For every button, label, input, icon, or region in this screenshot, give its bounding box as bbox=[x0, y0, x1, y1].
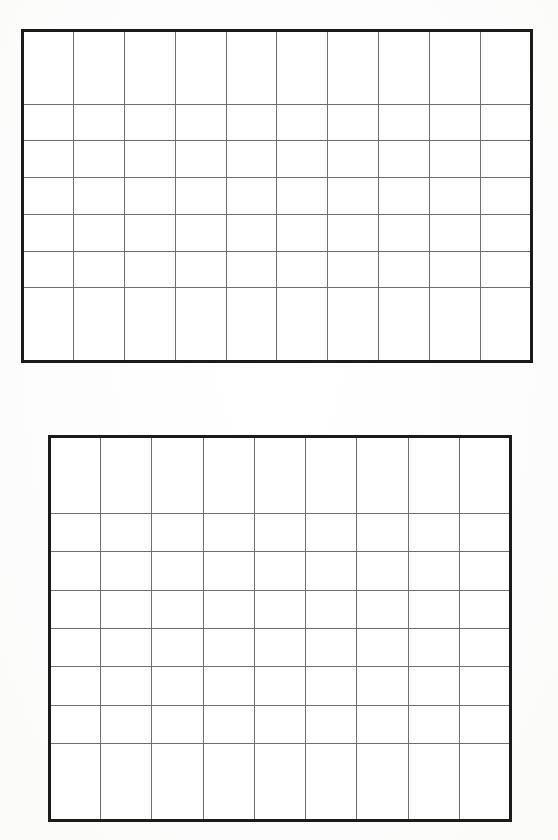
grid-cell[interactable] bbox=[73, 178, 124, 215]
grid-cell[interactable] bbox=[306, 552, 357, 590]
grid-cell[interactable] bbox=[152, 552, 203, 590]
grid-cell[interactable] bbox=[328, 141, 379, 178]
grid-cell[interactable] bbox=[23, 288, 74, 362]
grid-cell[interactable] bbox=[408, 513, 459, 551]
grid-cell[interactable] bbox=[23, 104, 74, 141]
grid-cell[interactable] bbox=[23, 141, 74, 178]
grid-cell[interactable] bbox=[50, 437, 101, 514]
grid-cell[interactable] bbox=[226, 251, 277, 288]
grid-cell[interactable] bbox=[226, 141, 277, 178]
grid-cell[interactable] bbox=[175, 141, 226, 178]
grid-cell[interactable] bbox=[101, 552, 152, 590]
grid-cell[interactable] bbox=[408, 744, 459, 821]
grid-cell[interactable] bbox=[379, 141, 430, 178]
grid-cell[interactable] bbox=[23, 178, 74, 215]
grid-cell[interactable] bbox=[50, 744, 101, 821]
grid-cell[interactable] bbox=[277, 288, 328, 362]
grid-cell[interactable] bbox=[73, 214, 124, 251]
grid-cell[interactable] bbox=[226, 178, 277, 215]
grid-cell[interactable] bbox=[379, 214, 430, 251]
grid-cell[interactable] bbox=[226, 214, 277, 251]
grid-cell[interactable] bbox=[328, 31, 379, 105]
grid-cell[interactable] bbox=[203, 437, 254, 514]
grid-cell[interactable] bbox=[357, 667, 408, 705]
grid-cell[interactable] bbox=[254, 437, 305, 514]
grid-cell[interactable] bbox=[328, 251, 379, 288]
grid-cell[interactable] bbox=[306, 744, 357, 821]
grid-cell[interactable] bbox=[430, 178, 481, 215]
grid-cell[interactable] bbox=[226, 104, 277, 141]
grid-cell[interactable] bbox=[481, 214, 532, 251]
grid-cell[interactable] bbox=[152, 513, 203, 551]
grid-cell[interactable] bbox=[459, 744, 510, 821]
grid-cell[interactable] bbox=[124, 214, 175, 251]
grid-cell[interactable] bbox=[357, 552, 408, 590]
grid-cell[interactable] bbox=[101, 705, 152, 743]
grid-cell[interactable] bbox=[254, 744, 305, 821]
grid-cell[interactable] bbox=[357, 513, 408, 551]
grid-cell[interactable] bbox=[101, 513, 152, 551]
grid-cell[interactable] bbox=[152, 667, 203, 705]
grid-cell[interactable] bbox=[306, 513, 357, 551]
grid-cell[interactable] bbox=[124, 288, 175, 362]
grid-cell[interactable] bbox=[306, 590, 357, 628]
grid-cell[interactable] bbox=[328, 104, 379, 141]
grid-cell[interactable] bbox=[357, 590, 408, 628]
grid-cell[interactable] bbox=[459, 552, 510, 590]
grid-cell[interactable] bbox=[328, 288, 379, 362]
grid-cell[interactable] bbox=[254, 513, 305, 551]
grid-cell[interactable] bbox=[357, 744, 408, 821]
grid-cell[interactable] bbox=[459, 667, 510, 705]
grid-cell[interactable] bbox=[306, 705, 357, 743]
grid-cell[interactable] bbox=[203, 552, 254, 590]
grid-cell[interactable] bbox=[152, 628, 203, 666]
grid-cell[interactable] bbox=[23, 31, 74, 105]
grid-cell[interactable] bbox=[481, 251, 532, 288]
grid-cell[interactable] bbox=[306, 437, 357, 514]
grid-cell[interactable] bbox=[277, 31, 328, 105]
grid-cell[interactable] bbox=[430, 31, 481, 105]
grid-cell[interactable] bbox=[124, 31, 175, 105]
grid-cell[interactable] bbox=[101, 437, 152, 514]
grid-cell[interactable] bbox=[379, 178, 430, 215]
grid-cell[interactable] bbox=[73, 104, 124, 141]
grid-cell[interactable] bbox=[306, 667, 357, 705]
grid-cell[interactable] bbox=[254, 552, 305, 590]
grid-cell[interactable] bbox=[124, 104, 175, 141]
grid-cell[interactable] bbox=[101, 628, 152, 666]
grid-cell[interactable] bbox=[306, 628, 357, 666]
grid-cell[interactable] bbox=[175, 31, 226, 105]
grid-cell[interactable] bbox=[23, 214, 74, 251]
grid-cell[interactable] bbox=[328, 178, 379, 215]
grid-cell[interactable] bbox=[175, 178, 226, 215]
grid-cell[interactable] bbox=[203, 628, 254, 666]
grid-cell[interactable] bbox=[254, 705, 305, 743]
top-grid[interactable] bbox=[21, 29, 533, 363]
grid-cell[interactable] bbox=[459, 705, 510, 743]
grid-cell[interactable] bbox=[152, 590, 203, 628]
grid-cell[interactable] bbox=[481, 141, 532, 178]
grid-cell[interactable] bbox=[459, 590, 510, 628]
grid-cell[interactable] bbox=[254, 628, 305, 666]
grid-cell[interactable] bbox=[101, 667, 152, 705]
grid-cell[interactable] bbox=[101, 744, 152, 821]
grid-cell[interactable] bbox=[73, 31, 124, 105]
grid-cell[interactable] bbox=[50, 705, 101, 743]
grid-cell[interactable] bbox=[23, 251, 74, 288]
grid-cell[interactable] bbox=[203, 513, 254, 551]
grid-cell[interactable] bbox=[430, 214, 481, 251]
grid-cell[interactable] bbox=[175, 104, 226, 141]
grid-cell[interactable] bbox=[357, 705, 408, 743]
grid-cell[interactable] bbox=[124, 141, 175, 178]
grid-cell[interactable] bbox=[430, 104, 481, 141]
grid-cell[interactable] bbox=[481, 31, 532, 105]
grid-cell[interactable] bbox=[152, 437, 203, 514]
grid-cell[interactable] bbox=[277, 214, 328, 251]
grid-cell[interactable] bbox=[277, 104, 328, 141]
grid-cell[interactable] bbox=[50, 628, 101, 666]
grid-cell[interactable] bbox=[101, 590, 152, 628]
grid-cell[interactable] bbox=[430, 141, 481, 178]
grid-cell[interactable] bbox=[408, 628, 459, 666]
grid-cell[interactable] bbox=[379, 288, 430, 362]
grid-cell[interactable] bbox=[175, 251, 226, 288]
